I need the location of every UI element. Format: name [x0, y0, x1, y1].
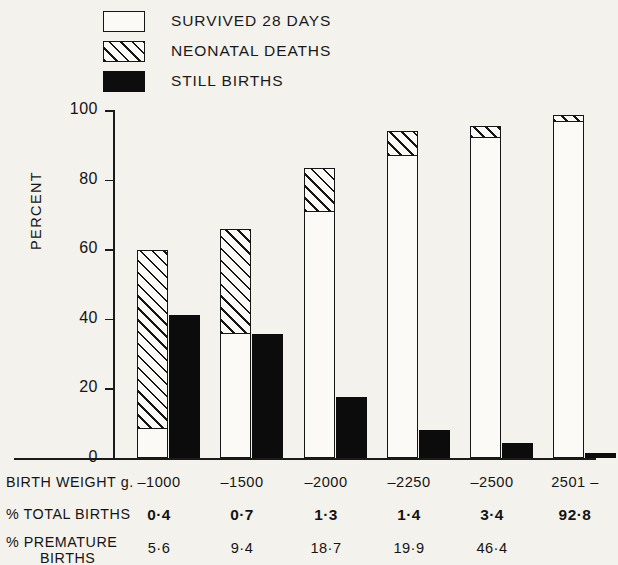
- bar-outcome-stack: [220, 229, 251, 458]
- y-axis-tick: 0: [105, 458, 114, 460]
- bar-outcome-stack: [387, 131, 418, 458]
- table-cell: 46·4: [449, 540, 535, 556]
- table-cell: 9·4: [199, 540, 285, 556]
- table-cell: –2250: [366, 474, 452, 490]
- table-cell: –2500: [449, 474, 535, 490]
- y-axis-tick: 60: [105, 249, 114, 251]
- legend-item-still-births: STILL BIRTHS: [103, 66, 523, 96]
- table-cell: 19·9: [366, 540, 452, 556]
- y-axis-tick-label: 60: [79, 239, 98, 257]
- y-axis-tick-label: 20: [79, 378, 98, 396]
- x-axis-line: [14, 458, 596, 460]
- table-cell: 92·8: [532, 506, 618, 524]
- y-axis-tick: 100: [105, 110, 114, 112]
- legend-swatch-neonatal-deaths-icon: [103, 41, 145, 62]
- bar-still-births: [169, 315, 200, 458]
- y-axis-tick-label: 80: [79, 170, 98, 188]
- bar-segment-neonatal-deaths: [305, 169, 334, 212]
- table-cell: 1·3: [283, 506, 369, 524]
- table-cell: –1000: [116, 474, 202, 490]
- bar-segment-neonatal-deaths: [221, 230, 250, 334]
- legend-swatch-survived-icon: [103, 11, 145, 32]
- table-row-header: % TOTAL BIRTHS: [6, 506, 131, 522]
- table-cell: 5·6: [116, 540, 202, 556]
- data-table: BIRTH WEIGHT g.–1000–1500–2000–2250–2500…: [0, 470, 596, 565]
- table-row-header: BIRTH WEIGHT g.: [6, 474, 134, 490]
- legend-label-survived: SURVIVED 28 DAYS: [171, 12, 331, 30]
- y-axis-tick-label: 40: [79, 309, 98, 327]
- table-cell: –2000: [283, 474, 369, 490]
- legend-item-neonatal-deaths: NEONATAL DEATHS: [103, 36, 523, 66]
- bar-segment-neonatal-deaths: [554, 116, 583, 122]
- bar-outcome-stack: [304, 168, 335, 458]
- y-axis-line: [113, 110, 115, 459]
- table-cell: –1500: [199, 474, 285, 490]
- chart-legend: SURVIVED 28 DAYS NEONATAL DEATHS STILL B…: [103, 6, 523, 96]
- table-cell: 3·4: [449, 506, 535, 524]
- table-cell: 0·7: [199, 506, 285, 524]
- bar-segment-neonatal-deaths: [471, 127, 500, 138]
- legend-label-still-births: STILL BIRTHS: [171, 72, 283, 90]
- bar-segment-neonatal-deaths: [138, 251, 167, 429]
- bar-still-births: [502, 443, 533, 458]
- bar-still-births: [585, 453, 616, 458]
- table-row-header: % PREMATUREBIRTHS: [6, 534, 117, 565]
- y-axis-tick: 20: [105, 388, 114, 390]
- bar-still-births: [419, 430, 450, 458]
- bar-outcome-stack: [470, 126, 501, 458]
- legend-item-survived: SURVIVED 28 DAYS: [103, 6, 523, 36]
- y-axis-tick-label: 0: [89, 448, 98, 466]
- bar-segment-neonatal-deaths: [388, 132, 417, 156]
- bar-still-births: [336, 397, 367, 458]
- table-row-header-sub: BIRTHS: [6, 550, 117, 565]
- legend-label-neonatal-deaths: NEONATAL DEATHS: [171, 42, 331, 60]
- y-axis-tick-label: 100: [70, 100, 98, 118]
- table-cell: 2501 –: [532, 474, 618, 490]
- table-cell: 18·7: [283, 540, 369, 556]
- y-axis-title: PERCENT: [28, 171, 44, 250]
- bar-still-births: [252, 334, 283, 458]
- y-axis-tick: 80: [105, 180, 114, 182]
- table-cell: 1·4: [366, 506, 452, 524]
- plot-area: PERCENT 100806040200: [0, 100, 596, 465]
- y-axis-tick: 40: [105, 319, 114, 321]
- bar-outcome-stack: [137, 250, 168, 458]
- legend-swatch-still-births-icon: [103, 71, 145, 92]
- table-cell: 0·4: [116, 506, 202, 524]
- bar-outcome-stack: [553, 115, 584, 458]
